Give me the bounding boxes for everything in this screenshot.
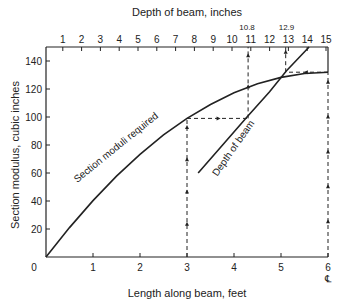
top-tick-label: 9 <box>210 34 216 45</box>
top-tick-label: 6 <box>154 34 160 45</box>
top-tick-label: 8 <box>192 34 198 45</box>
bottom-axis-label: Length along beam, feet <box>128 287 247 299</box>
top-tick-label: 11 <box>246 34 257 45</box>
x-tick-label: 5 <box>278 262 284 273</box>
top-annotation: 10.8 <box>239 23 255 32</box>
top-tick-label: 4 <box>116 34 122 45</box>
top-tick-label: 3 <box>98 34 104 45</box>
top-annotation: 12.9 <box>279 23 295 32</box>
top-tick-label: 1 <box>60 34 66 45</box>
x-tick-label: 6 <box>325 262 331 273</box>
x-tick-label: 1 <box>90 262 96 273</box>
x-tick-label: 3 <box>184 262 190 273</box>
x-tick-label: 4 <box>231 262 237 273</box>
arrow-icon <box>185 157 189 161</box>
top-axis-label: Depth of beam, inches <box>132 6 243 18</box>
curve-label-section-moduli: Section moduli required <box>72 110 161 185</box>
arrow-icon <box>185 125 189 129</box>
arrow-icon <box>326 219 330 223</box>
x-tick-label: 0 <box>31 262 37 273</box>
arrow-icon <box>326 80 330 84</box>
arrow-icon <box>185 222 189 226</box>
arrow-icon <box>326 184 330 188</box>
y-axis-label: Section modulus, cubic inches <box>9 81 21 229</box>
y-tick-label: 120 <box>25 84 42 95</box>
guide-lines <box>185 47 330 257</box>
top-tick-label: 7 <box>173 34 179 45</box>
top-tick-label: 15 <box>320 34 332 45</box>
arrow-icon <box>284 50 288 54</box>
top-tick-label: 13 <box>283 34 295 45</box>
arrow-icon <box>217 116 221 120</box>
y-tick-label: 80 <box>31 140 43 151</box>
centerline-symbol: ℄ <box>324 273 332 284</box>
y-tick-label: 140 <box>25 56 42 67</box>
y-tick-label: 60 <box>31 168 43 179</box>
depth-of-beam-curve <box>198 47 309 173</box>
x-tick-label: 2 <box>137 262 143 273</box>
arrow-icon <box>326 149 330 153</box>
arrow-icon <box>326 115 330 119</box>
top-tick-label: 10 <box>226 34 238 45</box>
top-tick-label: 2 <box>79 34 85 45</box>
top-tick-label: 5 <box>135 34 141 45</box>
curve-label-depth: Depth of beam <box>210 118 257 178</box>
arrow-icon <box>185 190 189 194</box>
y-tick-label: 40 <box>31 196 43 207</box>
chart: 0123456℄20406080100120140123456789101112… <box>0 0 341 308</box>
arrow-icon <box>246 53 250 57</box>
y-tick-label: 20 <box>31 224 43 235</box>
top-tick-label: 12 <box>264 34 276 45</box>
top-tick-label: 14 <box>302 34 314 45</box>
y-tick-label: 100 <box>25 112 42 123</box>
